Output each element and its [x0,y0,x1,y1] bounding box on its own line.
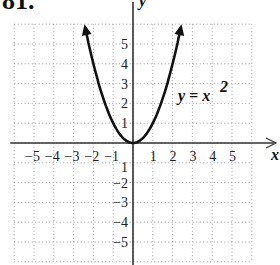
equation-exponent: 2 [219,78,228,95]
x-tick-label: −1 [104,149,119,164]
y-tick-label: 5 [121,37,128,52]
y-tick-label: 4 [121,57,128,72]
y-tick-label: 1 [121,116,128,131]
x-tick-label: −3 [65,149,80,164]
y-tick-label: 1 [121,160,128,175]
x-tick-label: −5 [25,149,40,164]
y-tick-label: 3 [121,77,128,92]
x-tick-label: 3 [189,149,196,164]
y-tick-label: −3 [113,195,128,210]
y-axis-label: y [137,0,147,10]
x-tick-label: 2 [170,149,177,164]
y-tick-label: −4 [113,215,128,230]
equation-label: y = x [176,87,210,105]
x-tick-label: 5 [229,149,236,164]
y-tick-label: −2 [113,176,128,191]
y-tick-label: −5 [113,235,128,250]
x-axis-label: x [270,146,279,163]
x-tick-label: −4 [45,149,60,164]
x-tick-label: −2 [84,149,99,164]
curve-arrow-left-icon [82,24,92,36]
y-tick-label: 2 [121,96,128,111]
parabola-chart: yx−5−4−3−2−112345543211−2−3−4−5y = x2 [0,0,280,265]
x-tick-label: 4 [209,149,216,164]
curve-arrow-right-icon [174,24,184,36]
x-tick-label: 1 [150,149,157,164]
